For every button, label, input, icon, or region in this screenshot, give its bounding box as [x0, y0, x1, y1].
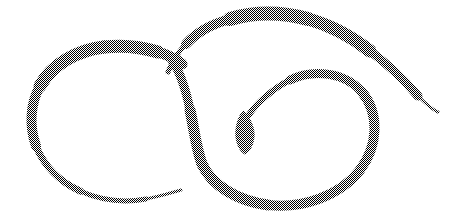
ink-fill	[0, 0, 473, 218]
calligraphic-flourish-drawing	[0, 0, 473, 218]
ink-layer	[0, 0, 473, 218]
drawing-canvas	[0, 0, 473, 218]
